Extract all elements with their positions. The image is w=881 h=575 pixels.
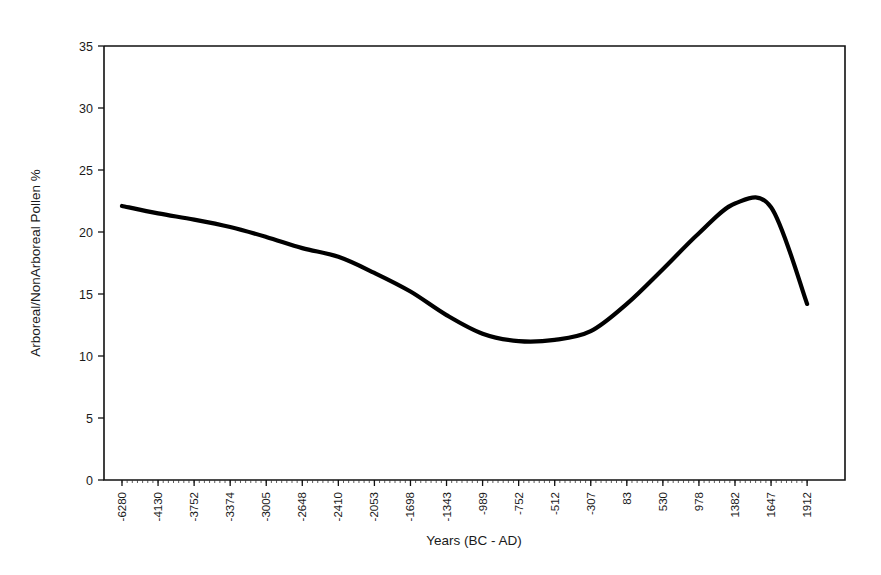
x-tick-label: -4130 [152, 492, 164, 521]
x-tick-label: -3752 [188, 492, 200, 521]
y-tick-label: 0 [86, 474, 93, 488]
x-tick-label: -307 [585, 492, 597, 515]
y-tick-label: 35 [79, 40, 93, 54]
x-tick-label: -752 [513, 492, 525, 515]
x-tick-label: 1647 [765, 492, 777, 518]
x-tick-label: 1912 [801, 492, 813, 518]
x-tick-label: -2053 [368, 492, 380, 521]
x-tick-label: 1382 [729, 492, 741, 518]
chart-background [0, 0, 881, 575]
x-axis-title: Years (BC - AD) [426, 533, 522, 548]
y-axis-title: Arboreal/NonArboreal Pollen % [28, 169, 43, 357]
x-tick-label: 530 [657, 492, 669, 511]
y-tick-label: 15 [79, 288, 93, 302]
x-tick-label: -6280 [116, 492, 128, 521]
x-tick-label: -1698 [404, 492, 416, 521]
x-tick-label: -512 [549, 492, 561, 515]
x-tick-label: -1343 [441, 492, 453, 521]
y-tick-label: 10 [79, 350, 93, 364]
x-tick-label: -3005 [260, 492, 272, 521]
pollen-percentage-line-chart: 0 5 10 15 20 25 30 35 Arboreal/NonArbore… [0, 0, 881, 575]
x-tick-label: -989 [477, 492, 489, 515]
x-tick-label: -2410 [332, 492, 344, 521]
y-tick-label: 30 [79, 102, 93, 116]
y-tick-label: 25 [79, 164, 93, 178]
y-tick-label: 5 [86, 412, 93, 426]
y-tick-label: 20 [79, 226, 93, 240]
x-tick-label: 978 [693, 492, 705, 511]
x-tick-label: -3374 [224, 491, 236, 521]
x-tick-label: -2648 [296, 492, 308, 521]
x-tick-label: 83 [621, 492, 633, 505]
